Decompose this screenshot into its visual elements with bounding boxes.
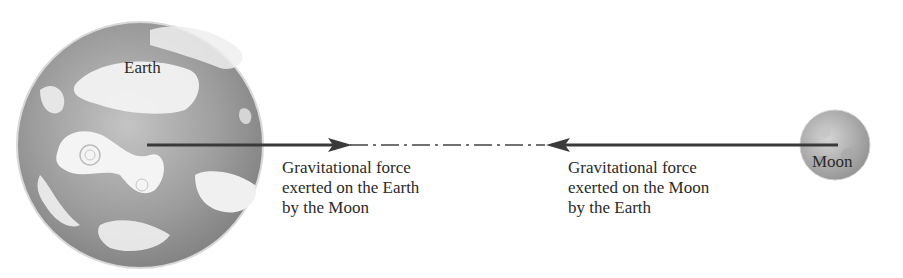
- diagram: Earth Moon Gravitational force exerted o…: [0, 0, 903, 278]
- diagram-graphic: [0, 0, 903, 278]
- earth-label: Earth: [124, 58, 161, 78]
- caption-line: Gravitational force: [282, 158, 419, 178]
- caption-line: by the Moon: [282, 198, 419, 218]
- force-caption-on-earth: Gravitational force exerted on the Earth…: [282, 158, 419, 218]
- moon-label: Moon: [812, 152, 853, 172]
- force-caption-on-moon: Gravitational force exerted on the Moon …: [568, 158, 709, 218]
- caption-line: by the Earth: [568, 198, 709, 218]
- caption-line: Gravitational force: [568, 158, 709, 178]
- caption-line: exerted on the Moon: [568, 178, 709, 198]
- caption-line: exerted on the Earth: [282, 178, 419, 198]
- force-arrow-on-moon: [546, 138, 838, 152]
